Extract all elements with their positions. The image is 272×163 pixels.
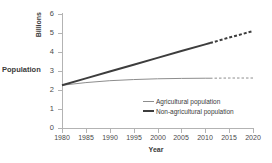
legend-swatch-agricultural-icon (143, 101, 154, 102)
chart-legend: Agricultural population Non-agricultural… (143, 96, 234, 116)
x-axis-title-text: Year (149, 146, 164, 153)
series-line-projected-1 (210, 31, 253, 43)
legend-item-non-agricultural: Non-agricultural population (143, 106, 234, 116)
population-line-chart: Billions Population 6 5 4 3 2 1 0 1980 1… (0, 0, 272, 163)
series-line-observed-1 (62, 43, 210, 85)
series-layer (0, 0, 272, 163)
legend-label-non-agricultural: Non-agricultural population (156, 107, 234, 116)
legend-label-agricultural: Agricultural population (156, 97, 220, 106)
legend-swatch-non-agricultural-icon (143, 110, 154, 112)
x-axis-title: Year (0, 146, 272, 153)
legend-item-agricultural: Agricultural population (143, 96, 234, 106)
